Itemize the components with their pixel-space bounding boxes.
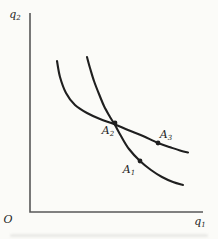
point-label-subscript: 2 bbox=[110, 130, 114, 138]
point-label-base: A bbox=[102, 124, 110, 137]
point-label-A1: A1 bbox=[123, 164, 135, 177]
y-axis-label-subscript: 2 bbox=[16, 14, 20, 22]
figure-svg bbox=[0, 0, 218, 239]
point-label-base: A bbox=[123, 163, 131, 176]
economics-curve-diagram: q2 q1 O A2A3A1 bbox=[0, 0, 218, 239]
point-dot-A1 bbox=[138, 159, 143, 164]
x-axis-label-subscript: 1 bbox=[201, 221, 205, 229]
y-axis-label-base: q bbox=[9, 8, 16, 21]
point-label-subscript: 3 bbox=[168, 134, 172, 142]
point-label-base: A bbox=[160, 128, 168, 141]
x-axis-label: q1 bbox=[194, 216, 206, 229]
scan-artifact bbox=[10, 234, 208, 237]
point-label-A2: A2 bbox=[102, 125, 114, 138]
y-axis-label: q2 bbox=[9, 9, 21, 22]
point-label-A3: A3 bbox=[160, 129, 172, 142]
x-axis-label-base: q bbox=[194, 215, 201, 228]
origin-label: O bbox=[3, 214, 12, 225]
point-label-subscript: 1 bbox=[131, 169, 135, 177]
axes-lines bbox=[30, 13, 203, 212]
